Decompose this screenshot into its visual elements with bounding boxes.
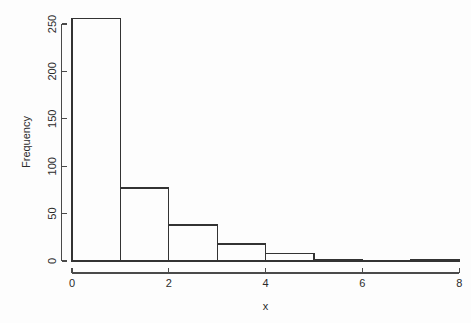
x-tick-label-0: 0: [69, 277, 75, 289]
x-tick-label-4: 4: [263, 277, 269, 289]
x-tick-label-8: 8: [456, 277, 462, 289]
y-tick-label-100: 100: [46, 157, 58, 175]
x-tick-label-2: 2: [166, 277, 172, 289]
y-tick-label-50: 50: [46, 207, 58, 219]
x-axis-title: x: [263, 300, 269, 312]
y-tick-label-250: 250: [46, 15, 58, 33]
plot-background: [0, 0, 471, 323]
histogram-svg: 0 50 100 150 200 250 Frequency: [0, 0, 471, 323]
y-axis-title: Frequency: [20, 116, 32, 168]
x-tick-label-6: 6: [359, 277, 365, 289]
y-tick-label-0: 0: [46, 258, 58, 264]
y-tick-label-200: 200: [46, 62, 58, 80]
y-tick-label-150: 150: [46, 110, 58, 128]
histogram-figure: 0 50 100 150 200 250 Frequency: [0, 0, 471, 323]
